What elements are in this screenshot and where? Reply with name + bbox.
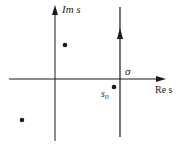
contour-arrow-icon <box>117 28 123 39</box>
real-axis-label: Re s <box>155 84 173 95</box>
real-axis-arrow-icon <box>156 76 166 82</box>
s0-label: s0 <box>101 88 109 101</box>
complex-plane-diagram: Im s Re s σ s0 <box>0 0 182 149</box>
pole-upper <box>63 43 68 48</box>
sigma-label: σ <box>125 65 131 77</box>
imaginary-axis-label: Im s <box>61 3 81 15</box>
s0-point <box>112 85 117 90</box>
pole-lower <box>20 118 25 123</box>
imaginary-axis-arrow-icon <box>52 5 58 15</box>
